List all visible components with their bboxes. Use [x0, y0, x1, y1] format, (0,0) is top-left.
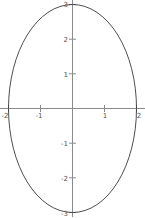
x-tick-label-neg1: -1: [36, 112, 43, 120]
y-tick-label-pos3: 3: [64, 1, 68, 9]
y-tick-label-pos1: 1: [64, 71, 68, 79]
y-tick-label-neg2: -2: [61, 175, 68, 183]
x-tick-label-pos2: 2: [137, 112, 141, 120]
y-tick-label-neg1: -1: [61, 140, 68, 148]
x-tick-label-neg2: -2: [2, 112, 9, 120]
y-tick-label-neg3: -3: [61, 210, 68, 218]
x-tick-label-pos1: 1: [103, 112, 107, 120]
ellipse-plot-figure: -2 -1 1 2 3 2 1 -1 -2 -3: [0, 0, 145, 217]
y-tick-label-pos2: 2: [64, 36, 68, 44]
plot-canvas: -2 -1 1 2 3 2 1 -1 -2 -3: [0, 0, 145, 217]
